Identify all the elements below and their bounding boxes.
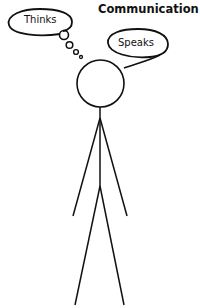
speech-bubble-label: Speaks — [118, 37, 154, 48]
thought-dot-large — [60, 31, 69, 40]
diagram-title: Communication — [98, 2, 198, 16]
figure-right-arm — [100, 118, 127, 216]
diagram-drawing — [0, 0, 200, 308]
thought-dot-small — [74, 50, 79, 55]
thought-dot-tiny — [80, 56, 83, 59]
figure-left-leg — [75, 186, 100, 305]
figure-left-arm — [73, 118, 100, 216]
thought-dot-medium — [66, 42, 73, 49]
stick-figure — [73, 60, 127, 305]
figure-head — [77, 60, 124, 107]
figure-right-leg — [100, 186, 124, 305]
communication-diagram: Communication Thinks Speaks — [0, 0, 200, 308]
thought-bubble-label: Thinks — [24, 14, 57, 25]
speech-bubble — [108, 29, 168, 68]
